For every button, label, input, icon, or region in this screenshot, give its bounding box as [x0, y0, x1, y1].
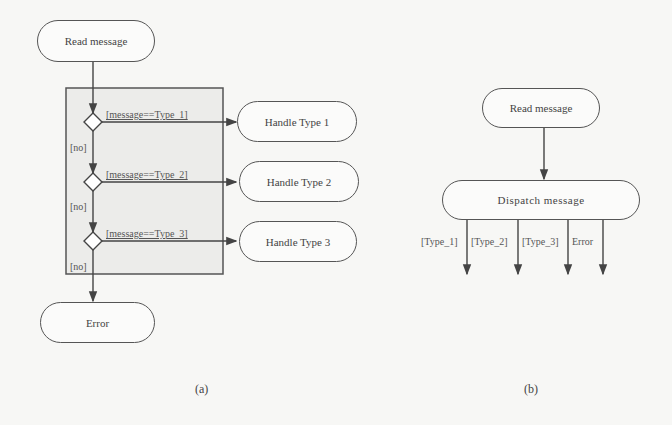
read-message-node-a: Read message — [37, 20, 155, 62]
no-label-2: [no] — [70, 201, 87, 212]
branch-error: Error — [572, 236, 593, 247]
no-label-1: [no] — [70, 142, 87, 153]
caption-b: (b) — [524, 382, 538, 397]
guard-type-3: [message==Type_3] — [106, 228, 188, 239]
handle-type-2-node: Handle Type 2 — [239, 161, 359, 202]
guard-type-2: [message==Type_2] — [106, 169, 188, 180]
branch-type-2: [Type_2] — [471, 236, 508, 247]
error-node: Error — [40, 302, 155, 343]
read-message-node-b: Read message — [482, 88, 600, 128]
guard-type-1: [message==Type_1] — [106, 109, 188, 120]
branch-type-3: [Type_3] — [522, 236, 559, 247]
handle-type-3-node: Handle Type 3 — [239, 221, 357, 262]
branch-type-1: [Type_1] — [421, 236, 458, 247]
handle-type-1-node: Handle Type 1 — [237, 101, 357, 142]
no-label-3: [no] — [70, 261, 87, 272]
caption-a: (a) — [195, 382, 208, 397]
dispatch-message-node: Dispatch message — [442, 180, 640, 220]
